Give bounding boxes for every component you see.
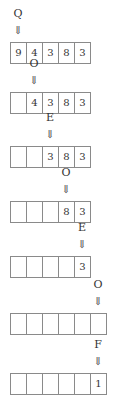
cell: 8 [59, 93, 75, 113]
cell [59, 257, 75, 277]
cell-row: 3 [10, 256, 91, 278]
cell: 3 [75, 147, 91, 167]
step-label: E [42, 112, 58, 124]
cell-row: 83 [10, 201, 91, 223]
cell: 3 [43, 147, 59, 167]
cell [27, 257, 43, 277]
down-arrow-icon: ⇓ [90, 296, 106, 308]
cell [11, 314, 27, 334]
cell [27, 147, 43, 167]
cell [43, 257, 59, 277]
step-label: E [74, 222, 90, 234]
cell-row: 383 [10, 146, 91, 168]
cell: 8 [59, 202, 75, 222]
cell-row [10, 313, 107, 335]
cell [75, 374, 91, 394]
cell [43, 202, 59, 222]
step-label: Q [10, 8, 26, 20]
down-arrow-icon: ⇓ [42, 129, 58, 141]
cell [11, 93, 27, 113]
cell [11, 202, 27, 222]
cell [75, 314, 91, 334]
down-arrow-icon: ⇓ [10, 25, 26, 37]
cell [27, 374, 43, 394]
cell [59, 314, 75, 334]
step-label: O [90, 279, 106, 291]
down-arrow-icon: ⇓ [90, 356, 106, 368]
down-arrow-icon: ⇓ [58, 184, 74, 196]
cell: 3 [43, 43, 59, 63]
step-label: O [58, 167, 74, 179]
cell [59, 374, 75, 394]
cell: 3 [75, 43, 91, 63]
cell [11, 374, 27, 394]
step-label: F [90, 339, 106, 351]
cell [27, 202, 43, 222]
cell [27, 314, 43, 334]
cell: 3 [75, 257, 91, 277]
cell: 1 [91, 374, 107, 394]
cell: 9 [11, 43, 27, 63]
cell [11, 257, 27, 277]
cell [11, 147, 27, 167]
down-arrow-icon: ⇓ [26, 75, 42, 87]
cell-row: 94383 [10, 42, 91, 64]
cell-row: 1 [10, 373, 107, 395]
step-label: O [26, 58, 42, 70]
cell: 3 [43, 93, 59, 113]
cell [43, 374, 59, 394]
cell: 3 [75, 93, 91, 113]
cell [43, 314, 59, 334]
cell: 3 [75, 202, 91, 222]
cell: 8 [59, 43, 75, 63]
cell [91, 314, 107, 334]
cell: 8 [59, 147, 75, 167]
cell: 4 [27, 93, 43, 113]
down-arrow-icon: ⇓ [74, 239, 90, 251]
